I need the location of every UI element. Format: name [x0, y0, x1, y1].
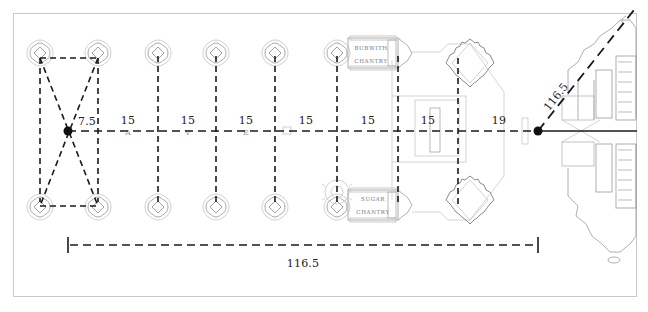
- octagon-outline: [392, 44, 528, 220]
- bubwith-chantry-label-2: CHANTRY: [354, 58, 387, 64]
- bay-label-15: 15: [421, 114, 435, 127]
- bay-label-15: 15: [239, 114, 253, 127]
- west-point: [64, 127, 73, 136]
- overall-dimension: [68, 237, 538, 253]
- bay-label-15: 15: [181, 114, 195, 127]
- plan-drawing: A V E: [0, 0, 648, 312]
- sugar-chantry-label-1: SUGAR: [361, 196, 385, 202]
- bubwith-chantry-outline: [348, 36, 412, 70]
- nave-letters: A V E: [124, 127, 291, 137]
- diagram-canvas: A V E: [0, 0, 648, 312]
- bay-label-7-5: 7.5: [78, 115, 96, 128]
- sugar-chantry-label-2: CHANTRY: [356, 209, 389, 215]
- bay-label-15: 15: [299, 114, 313, 127]
- bubwith-chantry-label-1: BUBWITH: [354, 45, 387, 51]
- svg-text:V: V: [184, 128, 191, 137]
- bay-label-15: 15: [121, 114, 135, 127]
- bay-label-15: 15: [361, 114, 375, 127]
- sugar-chantry-outline: [348, 188, 412, 222]
- svg-text:E: E: [243, 128, 249, 137]
- east-point: [534, 127, 543, 136]
- diagonal-dimension: [538, 10, 634, 131]
- svg-text:A: A: [124, 128, 131, 137]
- bay-label-19: 19: [492, 114, 506, 127]
- overall-length-label: 116.5: [287, 257, 320, 270]
